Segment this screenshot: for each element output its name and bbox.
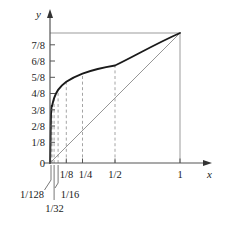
y-tick-label-6-8: 6/8: [32, 56, 45, 67]
math-plot-figure: 7/8 6/8 5/8 4/8 3/8 2/8 1/8 0 1/8 1/4 1/…: [0, 0, 226, 226]
callout-label-1-16: 1/16: [61, 189, 80, 200]
y-tick-label-3-8: 3/8: [32, 105, 45, 116]
callout-label-1-128: 1/128: [20, 189, 44, 200]
y-tick-label-5-8: 5/8: [32, 72, 45, 83]
x-tick-label-1-8: 1/8: [60, 169, 73, 180]
y-axis-tick-labels: 7/8 6/8 5/8 4/8 3/8 2/8 1/8 0: [32, 40, 45, 169]
callout-labels: 1/128 1/32 1/16: [20, 189, 79, 214]
y-axis-arrowhead: [47, 9, 53, 18]
dashed-guide-lines: [51, 66, 115, 164]
callout-label-1-32: 1/32: [45, 203, 64, 214]
x-axis-label: x: [206, 168, 212, 180]
x-tick-label-1-2: 1/2: [108, 169, 121, 180]
y-tick-label-7-8: 7/8: [32, 40, 45, 51]
y-tick-label-1-8: 1/8: [32, 137, 45, 148]
x-tick-label-1: 1: [177, 169, 182, 180]
callout-leader-1-128: [45, 165, 52, 190]
callout-leader-lines: [45, 165, 59, 200]
x-tick-label-1-4: 1/4: [79, 169, 93, 180]
x-axis: [44, 160, 212, 166]
y-axis-label: y: [35, 8, 41, 20]
x-axis-tick-labels: 1/8 1/4 1/2 1: [60, 169, 183, 180]
callout-leader-1-16: [55, 165, 58, 188]
x-axis-tick-marks: [66, 159, 180, 164]
x-axis-arrowhead: [203, 160, 212, 166]
origin-label: 0: [40, 158, 45, 169]
y-tick-label-2-8: 2/8: [32, 121, 45, 132]
y-tick-label-4-8: 4/8: [32, 88, 45, 99]
figure-root: 7/8 6/8 5/8 4/8 3/8 2/8 1/8 0 1/8 1/4 1/…: [0, 0, 226, 226]
